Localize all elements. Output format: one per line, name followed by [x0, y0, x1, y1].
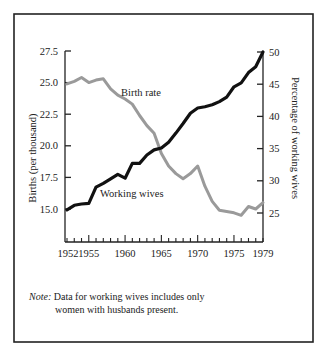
note-label: Note:	[29, 291, 51, 302]
x-tick-label: 1965	[151, 248, 172, 259]
y2-tick-label: 50	[269, 47, 280, 58]
note-line-2: women with husbands present.	[29, 303, 205, 316]
working-wives-line	[67, 52, 263, 210]
chart-note: Note: Data for working wives includes on…	[29, 290, 205, 316]
birth-rate-label: Birth rate	[121, 87, 161, 98]
y2-tick-label: 30	[269, 175, 280, 186]
y2-tick-label: 45	[269, 79, 280, 90]
y-tick-label: 15.0	[40, 204, 58, 215]
y-tick-label: 25.0	[40, 77, 58, 88]
y-tick-label: 27.5	[40, 46, 58, 57]
y2-tick-label: 25	[269, 208, 280, 219]
series-lines	[67, 52, 263, 215]
x-tick-label: 1970	[187, 248, 208, 259]
y2-tick-label: 40	[269, 111, 280, 122]
x-tick-label: 1952	[58, 248, 79, 259]
labels: Births (per thousand) Percentage of work…	[27, 77, 301, 203]
x-tick-label: 1960	[115, 248, 136, 259]
y-tick-label: 22.5	[40, 109, 58, 120]
y-axis-title: Births (per thousand)	[27, 113, 39, 203]
x-tick-label: 1955	[78, 248, 99, 259]
x-tick-label: 1975	[223, 248, 244, 259]
y2-tick-label: 35	[269, 143, 280, 154]
y2-axis-title: Percentage of working wives	[290, 77, 301, 199]
working-wives-label: Working wives	[100, 188, 164, 199]
y-tick-label: 17.5	[40, 172, 58, 183]
x-tick-label: 1979	[253, 248, 274, 259]
note-line-1: Data for working wives includes only	[54, 291, 205, 302]
y-tick-label: 20.0	[40, 140, 58, 151]
